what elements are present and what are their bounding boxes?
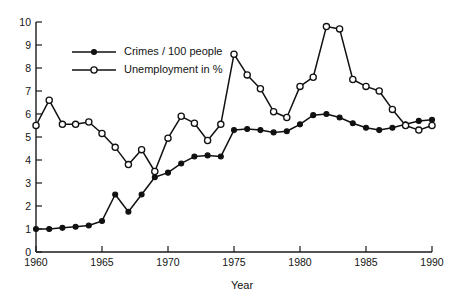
- data-point: [389, 106, 395, 112]
- y-tick-label: 3: [25, 177, 31, 189]
- y-tick-label: 10: [19, 16, 31, 28]
- data-point: [257, 86, 263, 92]
- data-point: [33, 122, 39, 128]
- data-point: [297, 83, 303, 89]
- data-point: [430, 117, 435, 122]
- data-point: [73, 121, 79, 127]
- data-point: [86, 223, 91, 228]
- data-point: [429, 122, 435, 128]
- x-axis-title: Year: [231, 279, 254, 291]
- data-point: [46, 97, 52, 103]
- series-unemployment: [33, 24, 435, 175]
- data-point: [390, 125, 395, 130]
- data-point: [377, 128, 382, 133]
- chart-container: 012345678910 196019651970197519801985199…: [0, 0, 461, 299]
- data-point: [139, 147, 145, 153]
- x-tick-label: 1965: [90, 256, 114, 268]
- y-tick-label: 2: [25, 200, 31, 212]
- legend-label: Crimes / 100 people: [124, 45, 222, 57]
- data-point: [416, 127, 422, 133]
- data-point: [165, 135, 171, 141]
- x-tick-label: 1980: [288, 256, 312, 268]
- x-tick-label: 1990: [420, 256, 444, 268]
- y-tick-label: 4: [25, 154, 31, 166]
- y-tick-label: 7: [25, 85, 31, 97]
- y-tick-label: 5: [25, 131, 31, 143]
- data-point: [311, 113, 316, 118]
- line-chart: 012345678910 196019651970197519801985199…: [0, 0, 461, 299]
- x-tick-label: 1975: [222, 256, 246, 268]
- data-point: [337, 26, 343, 32]
- data-point: [298, 122, 303, 127]
- x-tick-label: 1970: [156, 256, 180, 268]
- legend-marker: [92, 50, 97, 55]
- legend-marker: [91, 67, 97, 73]
- data-point: [47, 227, 52, 232]
- y-axis-ticks: 012345678910: [19, 16, 42, 258]
- x-axis-ticks: 1960196519701975198019851990: [24, 246, 444, 268]
- data-point: [350, 76, 356, 82]
- y-tick-label: 9: [25, 39, 31, 51]
- data-point: [152, 175, 157, 180]
- data-point: [112, 144, 118, 150]
- data-point: [245, 126, 250, 131]
- data-point: [60, 225, 65, 230]
- data-point: [166, 170, 171, 175]
- data-point: [258, 128, 263, 133]
- data-point: [139, 192, 144, 197]
- data-point: [284, 129, 289, 134]
- data-point: [271, 130, 276, 135]
- data-point: [284, 114, 290, 120]
- data-point: [324, 112, 329, 117]
- legend-label: Unemployment in %: [124, 63, 223, 75]
- data-point: [271, 109, 277, 115]
- data-point: [218, 121, 224, 127]
- data-point: [244, 72, 250, 78]
- data-point: [363, 83, 369, 89]
- data-point: [59, 121, 65, 127]
- chart-legend: Crimes / 100 peopleUnemployment in %: [72, 45, 223, 75]
- data-point: [99, 130, 105, 136]
- data-point: [100, 218, 105, 223]
- data-point: [191, 120, 197, 126]
- data-point: [126, 209, 131, 214]
- y-tick-label: 6: [25, 108, 31, 120]
- data-point: [231, 51, 237, 57]
- data-point: [205, 153, 210, 158]
- series-line: [36, 27, 432, 172]
- data-point: [73, 224, 78, 229]
- data-point: [337, 115, 342, 120]
- data-point: [376, 88, 382, 94]
- y-tick-label: 8: [25, 62, 31, 74]
- data-point: [205, 137, 211, 143]
- data-point: [178, 113, 184, 119]
- data-point: [34, 227, 39, 232]
- data-point: [323, 24, 329, 30]
- data-point: [416, 118, 421, 123]
- data-point: [364, 125, 369, 130]
- x-tick-label: 1985: [354, 256, 378, 268]
- series-crimes: [34, 112, 435, 232]
- data-point: [125, 162, 131, 168]
- data-point: [403, 122, 409, 128]
- data-point: [310, 74, 316, 80]
- data-point: [86, 119, 92, 125]
- data-point: [179, 161, 184, 166]
- data-point: [192, 154, 197, 159]
- data-point: [232, 128, 237, 133]
- y-tick-label: 1: [25, 223, 31, 235]
- data-point: [152, 168, 158, 174]
- x-tick-label: 1960: [24, 256, 48, 268]
- data-point: [218, 154, 223, 159]
- data-point: [113, 192, 118, 197]
- data-point: [350, 121, 355, 126]
